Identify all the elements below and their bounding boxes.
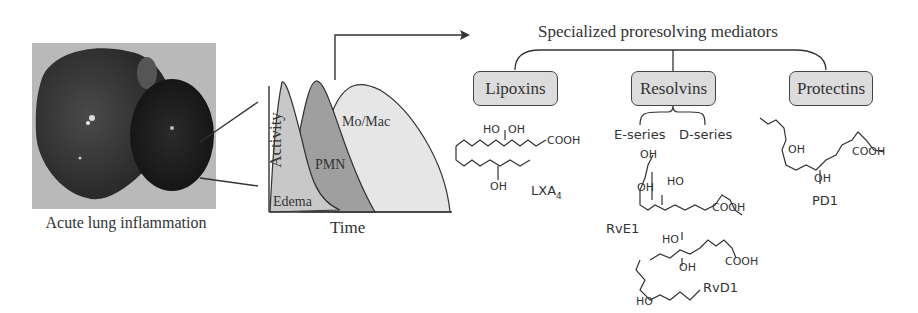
spm-title: Specialized proresolving mediators xyxy=(538,22,778,42)
lxa4-name: LXA xyxy=(531,183,556,198)
category-box-resolvins: Resolvins xyxy=(631,71,716,106)
compound-label-lxa4: LXA4 xyxy=(531,183,562,201)
arrow-line xyxy=(335,35,462,80)
lxa4-group-ho: HO xyxy=(483,123,500,136)
zoom-line-top xyxy=(200,102,258,142)
rvd1-group-oh: OH xyxy=(679,261,696,274)
resolvins-d-series: D-series xyxy=(679,127,732,142)
rve1-group-oh: OH xyxy=(637,181,654,194)
zoom-line-bottom xyxy=(200,178,258,186)
resolvins-brace xyxy=(640,106,705,125)
lxa4-structure xyxy=(456,130,546,180)
rvd1-group-ho: HO xyxy=(662,233,679,246)
resolvins-e-series: E-series xyxy=(614,127,665,142)
pd1-group-oh2: OH xyxy=(814,172,831,185)
rve1-group-oh-top: OH xyxy=(640,148,657,161)
pd1-group-cooh: COOH xyxy=(852,145,885,158)
rve1-group-cooh: COOH xyxy=(712,201,745,214)
rve1-group-ho: HO xyxy=(667,175,684,188)
diagram-canvas xyxy=(0,0,918,313)
lxa4-subscript: 4 xyxy=(556,191,562,201)
compound-label-pd1: PD1 xyxy=(812,193,838,208)
rvd1-group-ho2: HO xyxy=(636,295,653,308)
rvd1-group-cooh: COOH xyxy=(725,255,758,268)
category-box-lipoxins: Lipoxins xyxy=(473,71,558,106)
activity-chart xyxy=(269,81,452,212)
lxa4-group-cooh: COOH xyxy=(547,134,580,147)
chart-xlabel: Time xyxy=(330,218,365,238)
lxa4-group-oh2: OH xyxy=(490,180,507,193)
category-box-protectins: Protectins xyxy=(789,71,873,106)
spm-bracket xyxy=(515,50,826,70)
compound-label-rve1: RvE1 xyxy=(606,221,639,236)
series-label-edema: Edema xyxy=(273,194,312,210)
compound-label-rvd1: RvD1 xyxy=(703,280,738,295)
lxa4-group-oh: OH xyxy=(508,123,525,136)
chart-ylabel: Activity xyxy=(266,100,286,180)
series-label-pmn: PMN xyxy=(315,157,345,173)
pd1-group-oh: OH xyxy=(788,143,805,156)
series-label-momac: Mo/Mac xyxy=(342,114,390,130)
